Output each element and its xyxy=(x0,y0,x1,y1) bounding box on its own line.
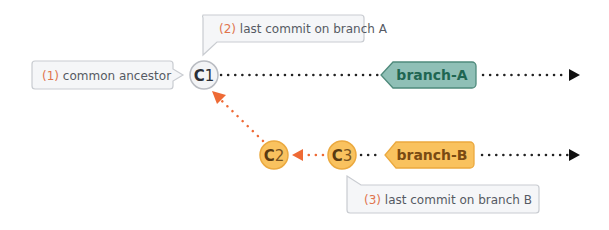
commit-c3[interactable]: C3 xyxy=(328,141,356,169)
callout-last-commit-b: (3) last commit on branch B xyxy=(347,176,539,213)
svg-text:C2: C2 xyxy=(264,147,285,165)
callout-label: common ancestor xyxy=(59,69,171,83)
commit-number: 1 xyxy=(205,67,215,85)
branch-b-tag[interactable]: branch-B xyxy=(385,142,474,168)
svg-text:(3) last commit on branch B: (3) last commit on branch B xyxy=(364,193,532,207)
svg-text:C3: C3 xyxy=(332,147,353,165)
commit-number: 3 xyxy=(343,147,353,165)
commit-letter: C xyxy=(332,147,343,165)
callout-label: last commit on branch B xyxy=(381,193,532,207)
callout-last-commit-a: (2) last commit on branch A xyxy=(203,15,388,55)
arrow-up-left-icon xyxy=(212,91,226,104)
parent-link-c2-c1 xyxy=(222,101,263,141)
branch-diagram: (1) common ancestor (2) last commit on b… xyxy=(0,0,609,230)
callout-number: (1) xyxy=(42,69,59,83)
arrow-right-icon xyxy=(569,149,580,161)
callout-number: (3) xyxy=(364,193,381,207)
callout-common-ancestor: (1) common ancestor xyxy=(32,61,183,89)
svg-text:(1) common ancestor: (1) common ancestor xyxy=(42,69,171,83)
branch-a-label: branch-A xyxy=(396,67,467,83)
commit-letter: C xyxy=(264,147,275,165)
arrow-left-icon xyxy=(292,149,303,161)
callout-number: (2) xyxy=(219,22,236,36)
svg-text:C1: C1 xyxy=(194,67,215,85)
callout-label: last commit on branch A xyxy=(236,22,388,36)
branch-b-label: branch-B xyxy=(396,147,467,163)
commit-letter: C xyxy=(194,67,205,85)
svg-text:(2) last commit on branch A: (2) last commit on branch A xyxy=(219,22,388,36)
commit-c2[interactable]: C2 xyxy=(260,141,288,169)
branch-a-tag[interactable]: branch-A xyxy=(381,62,476,88)
arrow-right-icon xyxy=(569,69,580,81)
commit-c1[interactable]: C1 xyxy=(190,61,218,89)
commit-number: 2 xyxy=(275,147,285,165)
